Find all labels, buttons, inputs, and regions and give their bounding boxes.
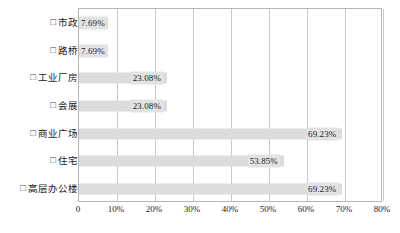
x-tick-label-40%: 40% xyxy=(222,204,239,214)
bar-row: 7.69% xyxy=(79,9,381,37)
x-tick-label-20%: 20% xyxy=(146,204,163,214)
legend-square-icon: □ xyxy=(30,72,36,82)
x-tick-label-80%: 80% xyxy=(374,204,391,214)
category-label-text: 路桥 xyxy=(58,43,78,57)
category-label-2: □路桥 xyxy=(50,36,78,64)
x-tick-label-10%: 10% xyxy=(108,204,125,214)
bar-row: 23.08% xyxy=(79,64,381,92)
category-label-text: 会展 xyxy=(58,98,78,112)
bar-track: 23.08% xyxy=(79,92,381,120)
category-label-text: 商业广场 xyxy=(38,126,78,140)
category-label-text: 住宅 xyxy=(58,153,78,167)
bar-track: 53.85% xyxy=(79,148,381,176)
plot-area: 7.69%7.69%23.08%23.08%69.23%53.85%69.23% xyxy=(78,8,382,202)
bar-track: 23.08% xyxy=(79,64,381,92)
bar-value-label: 69.23% xyxy=(306,183,338,196)
bar[interactable] xyxy=(79,184,342,195)
bar-value-label: 7.69% xyxy=(79,44,107,57)
bar-value-label: 53.85% xyxy=(248,155,280,168)
bar-row: 23.08% xyxy=(79,92,381,120)
bar[interactable] xyxy=(79,128,342,139)
bar-track: 69.23% xyxy=(79,120,381,148)
bar-value-label: 69.23% xyxy=(306,127,338,140)
x-tick-label-60%: 60% xyxy=(298,204,315,214)
bar-track: 69.23% xyxy=(79,175,381,203)
x-tick-label-30%: 30% xyxy=(184,204,201,214)
bar-track: 7.69% xyxy=(79,9,381,37)
x-tick-label-70%: 70% xyxy=(336,204,353,214)
category-label-text: 市政 xyxy=(58,15,78,29)
bar-row: 53.85% xyxy=(79,148,381,176)
legend-square-icon: □ xyxy=(50,17,56,27)
legend-square-icon: □ xyxy=(50,155,56,165)
bar-chart: 7.69%7.69%23.08%23.08%69.23%53.85%69.23%… xyxy=(0,0,400,233)
category-label-1: □市政 xyxy=(50,8,78,36)
bar-row: 69.23% xyxy=(79,120,381,148)
category-label-6: □住宅 xyxy=(50,147,78,175)
legend-square-icon: □ xyxy=(50,45,56,55)
legend-square-icon: □ xyxy=(20,183,26,193)
gridline-80% xyxy=(383,9,384,201)
x-axis-tick-labels: 010%20%30%40%50%60%70%80% xyxy=(78,204,382,222)
category-label-4: □会展 xyxy=(50,91,78,119)
category-label-3: □工业厂房 xyxy=(30,63,78,91)
bar-track: 7.69% xyxy=(79,37,381,65)
category-label-7: □高层办公楼 xyxy=(20,174,78,202)
bar-value-label: 23.08% xyxy=(131,99,163,112)
x-tick-label-0: 0 xyxy=(76,204,81,214)
x-tick-label-50%: 50% xyxy=(260,204,277,214)
category-label-text: 高层办公楼 xyxy=(28,181,78,195)
category-label-text: 工业厂房 xyxy=(38,70,78,84)
legend-square-icon: □ xyxy=(50,100,56,110)
legend-square-icon: □ xyxy=(30,128,36,138)
bar-value-label: 7.69% xyxy=(79,16,107,29)
bar-row: 7.69% xyxy=(79,37,381,65)
bar-value-label: 23.08% xyxy=(131,72,163,85)
category-label-5: □商业广场 xyxy=(30,119,78,147)
bar-row: 69.23% xyxy=(79,175,381,203)
